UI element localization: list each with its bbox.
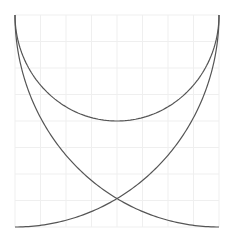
chart-canvas (0, 0, 234, 237)
